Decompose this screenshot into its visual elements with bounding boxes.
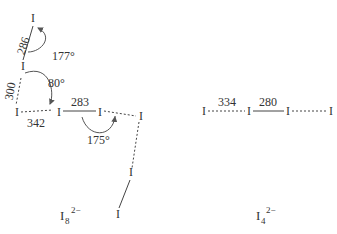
svg-text:300: 300 (2, 81, 19, 101)
svg-text:80°: 80° (48, 76, 65, 90)
svg-text:I: I (15, 105, 19, 119)
svg-text:175°: 175° (87, 133, 110, 147)
svg-text:342: 342 (27, 116, 45, 130)
svg-text:I: I (31, 11, 35, 25)
svg-text:2−: 2− (71, 205, 81, 215)
svg-text:280: 280 (259, 95, 277, 109)
svg-text:I: I (98, 105, 102, 119)
svg-text:I: I (139, 109, 143, 123)
svg-text:177°: 177° (52, 49, 75, 63)
svg-text:I: I (60, 208, 64, 223)
svg-text:I: I (202, 104, 206, 118)
svg-text:334: 334 (218, 95, 236, 109)
svg-text:I: I (247, 104, 251, 118)
i8-labels: 286 300 342 283 177° 80° 175° (2, 35, 110, 147)
svg-text:I: I (329, 104, 333, 118)
i8-formula: I 8 2− (60, 205, 81, 226)
i4-formula: I 4 2− (256, 205, 276, 226)
polyiodide-diagram: I I I I I I I I 286 300 342 283 177° 80°… (0, 0, 337, 234)
svg-text:4: 4 (261, 216, 266, 226)
svg-text:I: I (116, 207, 120, 221)
svg-text:I: I (129, 165, 133, 179)
svg-text:I: I (21, 59, 25, 73)
svg-text:I: I (286, 104, 290, 118)
svg-text:2−: 2− (266, 205, 276, 215)
svg-text:I: I (256, 208, 260, 223)
svg-text:283: 283 (71, 95, 89, 109)
svg-text:8: 8 (65, 216, 70, 226)
svg-text:I: I (57, 105, 61, 119)
